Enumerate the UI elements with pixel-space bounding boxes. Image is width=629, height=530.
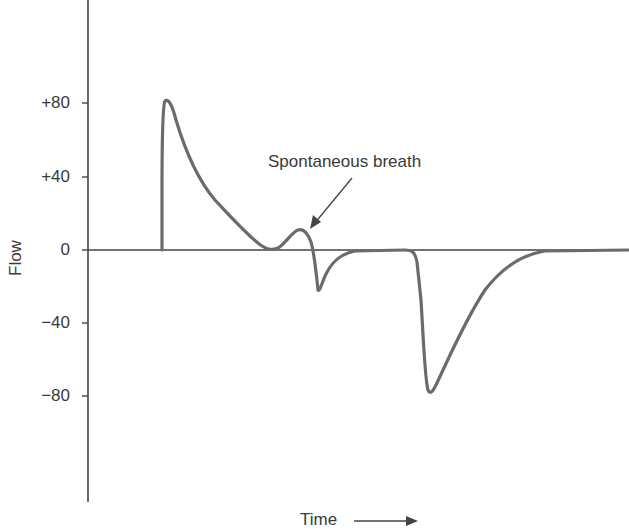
y-tick-label-neg80: −80 [10,386,70,406]
annotation-arrow-line [314,178,352,224]
y-axis-label: Flow [6,240,26,276]
x-axis-label: Time [300,510,337,530]
annotation-label: Spontaneous breath [268,152,421,172]
y-tick-label-neg40: −40 [10,313,70,333]
y-tick-label-40: +40 [10,167,70,187]
flow-waveform-line [162,100,629,392]
time-arrow-icon [406,516,418,526]
y-tick-label-80: +80 [10,93,70,113]
flow-time-chart [0,0,629,530]
